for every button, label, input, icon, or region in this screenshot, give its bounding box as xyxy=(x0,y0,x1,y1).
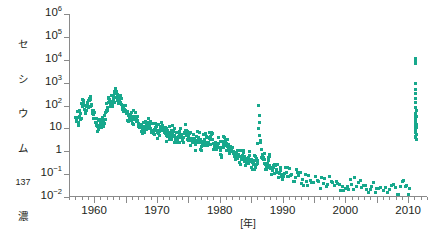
data-point xyxy=(414,62,417,65)
x-tick-major xyxy=(314,197,315,203)
y-tick-label: 106 xyxy=(7,6,62,18)
x-tick-minor xyxy=(75,197,76,200)
x-tick-minor xyxy=(213,197,214,200)
x-tick-minor xyxy=(232,197,233,200)
data-point xyxy=(414,101,417,104)
data-point xyxy=(197,141,200,144)
data-point xyxy=(250,159,253,162)
figure-container: セ シ ウ ム 137 濃 度 [MBq/ km2・月] 10610510410… xyxy=(0,0,433,236)
data-point xyxy=(338,183,341,186)
y-title-isotope: 137 xyxy=(2,177,44,188)
data-point xyxy=(289,174,292,177)
data-point xyxy=(79,112,82,115)
y-tick-mark xyxy=(64,151,69,152)
data-point xyxy=(316,179,319,182)
data-point xyxy=(189,131,192,134)
data-point xyxy=(143,131,146,134)
x-tick-major xyxy=(283,197,284,203)
data-point xyxy=(104,118,107,121)
data-point xyxy=(117,102,120,105)
x-tick-minor xyxy=(100,197,101,200)
data-point xyxy=(279,166,282,169)
data-point xyxy=(353,176,356,179)
data-point xyxy=(288,167,291,170)
data-point xyxy=(414,88,417,91)
data-point xyxy=(258,134,261,137)
x-tick-minor xyxy=(333,197,334,200)
data-point xyxy=(352,188,355,191)
data-point xyxy=(263,152,266,155)
x-tick-minor xyxy=(182,197,183,200)
data-point xyxy=(414,92,417,95)
data-point xyxy=(165,140,168,143)
data-point xyxy=(182,141,185,144)
data-point xyxy=(105,102,108,105)
data-point xyxy=(293,180,296,183)
y-tick-label: 105 xyxy=(7,29,62,41)
y-tick-mark xyxy=(64,174,69,175)
data-point xyxy=(106,109,109,112)
data-point xyxy=(359,179,362,182)
x-tick-minor xyxy=(69,197,70,200)
data-point xyxy=(89,95,92,98)
data-point xyxy=(258,114,261,117)
data-point xyxy=(399,185,402,188)
x-tick-major xyxy=(188,197,189,203)
x-tick-minor xyxy=(414,197,415,200)
data-point xyxy=(299,171,302,174)
data-point xyxy=(402,179,405,182)
data-point xyxy=(282,175,285,178)
data-point xyxy=(415,138,418,141)
data-point xyxy=(305,180,308,183)
x-tick-minor xyxy=(195,197,196,200)
x-tick-minor xyxy=(245,197,246,200)
x-axis-title: [年] xyxy=(69,215,427,230)
data-point xyxy=(173,127,176,130)
data-point xyxy=(75,120,78,123)
x-tick-minor xyxy=(327,197,328,200)
x-tick-minor xyxy=(226,197,227,200)
data-point xyxy=(306,184,309,187)
data-point xyxy=(364,184,367,187)
data-point xyxy=(97,128,100,131)
x-tick-minor xyxy=(169,197,170,200)
data-point xyxy=(127,120,130,123)
data-point xyxy=(260,148,263,151)
data-point xyxy=(126,110,129,113)
data-point xyxy=(95,124,98,127)
data-point xyxy=(231,146,234,149)
data-point xyxy=(379,186,382,189)
x-tick-minor xyxy=(138,197,139,200)
data-point xyxy=(311,181,314,184)
data-point xyxy=(414,97,417,100)
data-point xyxy=(307,174,310,177)
data-point xyxy=(120,97,123,100)
x-tick-minor xyxy=(163,197,164,200)
data-point xyxy=(304,173,307,176)
data-point xyxy=(77,124,80,127)
y-tick-mark xyxy=(64,37,69,38)
data-point xyxy=(328,175,331,178)
data-point xyxy=(82,99,85,102)
data-point xyxy=(325,185,328,188)
data-point xyxy=(255,163,258,166)
data-point xyxy=(319,187,322,190)
x-tick-minor xyxy=(383,197,384,200)
data-point xyxy=(136,119,139,122)
data-point xyxy=(374,191,377,194)
data-point xyxy=(355,185,358,188)
data-point xyxy=(90,103,93,106)
y-tick-label: 102 xyxy=(7,98,62,110)
y-tick-label: 1 xyxy=(7,143,62,155)
x-tick-minor xyxy=(107,197,108,200)
data-point xyxy=(194,149,197,152)
x-tick-minor xyxy=(339,197,340,200)
x-tick-minor xyxy=(358,197,359,200)
data-point xyxy=(271,168,274,171)
data-point xyxy=(281,178,284,181)
y-tick-mark xyxy=(64,83,69,84)
data-point xyxy=(372,181,375,184)
x-tick-minor xyxy=(308,197,309,200)
data-point xyxy=(263,158,266,161)
x-tick-minor xyxy=(132,197,133,200)
